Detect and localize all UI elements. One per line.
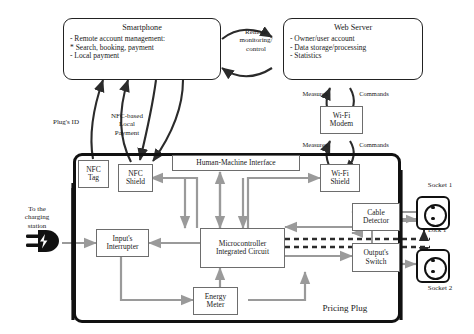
inputs-interrupter-node: Input's Interrupter xyxy=(96,229,149,257)
nfc-payment-line-1: NFC-based xyxy=(111,112,143,120)
smartphone-node: Smartphone - Remote account management: … xyxy=(63,18,221,80)
to-charging-station-label: To the charging station xyxy=(4,205,70,230)
hmi-label: Human-Machine Interface xyxy=(196,159,275,167)
commands-upper-label: Commands xyxy=(348,90,400,98)
energy-meter-line-2: Meter xyxy=(207,301,225,309)
pricing-plug-label: Pricing Plug xyxy=(300,303,390,314)
cable-detector-line-2: Detector xyxy=(363,217,389,225)
microcontroller-node: Microcontroller Integrated Circuit xyxy=(200,228,285,268)
smartphone-title: Smartphone xyxy=(64,23,220,32)
socket-1-outlet-icon xyxy=(416,196,450,230)
nfc-payment-line-2: Local xyxy=(119,120,135,128)
nfc-payment-line-3: Payment xyxy=(115,129,140,137)
web-server-node: Web Server - Owner/user account - Data s… xyxy=(283,18,423,80)
socket-2-outlet-icon xyxy=(416,249,450,283)
inputs-interrupter-line-2: Interrupter xyxy=(106,243,138,251)
outputs-switch-line-2: Switch xyxy=(366,258,387,266)
human-machine-interface-node: Human-Machine Interface xyxy=(172,155,300,171)
remote-monitoring-line-2: monitoring/ xyxy=(239,36,272,44)
socket-1-label: Socket 1 xyxy=(410,181,470,189)
outputs-switch-node: Output's Switch xyxy=(352,243,400,272)
remote-monitoring-line-3: control xyxy=(246,45,266,53)
remote-monitoring-line-1: Remote xyxy=(245,28,267,36)
web-server-title: Web Server xyxy=(284,23,422,32)
charging-station-line-1: To the xyxy=(28,205,46,213)
wifi-shield-line-2: Shield xyxy=(330,178,349,186)
nfc-tag-node: NFC Tag xyxy=(78,160,109,188)
lock-1-label: Lock 1 xyxy=(428,226,468,234)
wifi-modem-line-2: Modem xyxy=(330,120,353,128)
charging-station-line-2: charging xyxy=(25,213,49,221)
energy-meter-node: Energy Meter xyxy=(193,287,238,315)
mcu-line-2: Integrated Circuit xyxy=(216,248,269,256)
socket-1-pin-bottom xyxy=(431,217,434,220)
nfc-local-payment-label: NFC-based Local Payment xyxy=(96,112,158,137)
smartphone-line-3: - Local payment xyxy=(64,52,220,60)
wifi-modem-node: Wi-Fi Modem xyxy=(320,106,363,134)
measures-upper-label: Measures xyxy=(292,90,338,98)
web-server-line-3: - Statistics xyxy=(284,52,422,60)
cable-detector-node: Cable Detector xyxy=(352,203,400,231)
nfc-shield-node: NFC Shield xyxy=(118,164,153,192)
nfc-tag-line-2: Tag xyxy=(88,174,99,182)
measures-lower-label: Measures xyxy=(292,141,338,149)
commands-lower-label: Commands xyxy=(348,141,400,149)
diagram-canvas: Pricing Plug Smartphone - Remote account… xyxy=(0,0,474,334)
socket-2-ring xyxy=(424,257,447,280)
power-plug-icon xyxy=(24,228,62,254)
nfc-shield-line-2: Shield xyxy=(126,178,145,186)
socket-1-ring xyxy=(424,204,447,227)
remote-monitoring-label: Remote monitoring/ control xyxy=(228,28,284,53)
plugs-id-label: Plug's ID xyxy=(38,118,94,126)
socket-2-pin-bottom xyxy=(431,270,434,273)
wifi-shield-node: Wi-Fi Shield xyxy=(320,164,360,192)
socket-2-label: Socket 2 xyxy=(410,284,470,292)
